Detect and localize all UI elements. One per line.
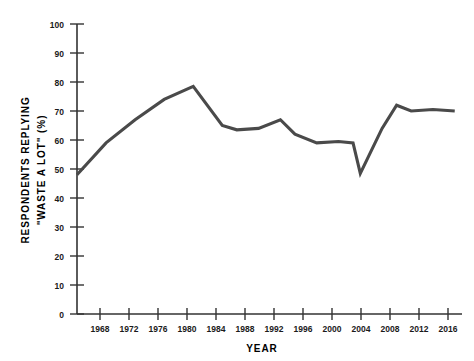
chart-container: 100 90 80 70 60 50 40 30 20 10 0 (0, 0, 474, 361)
y-tick-label: 20 (55, 252, 65, 262)
x-tick-label: 1968 (91, 324, 110, 334)
x-tick-label: 2008 (381, 324, 400, 334)
y-axis-tick-labels: 100 90 80 70 60 50 40 30 20 10 0 (50, 20, 64, 320)
x-tick-label: 1976 (149, 324, 168, 334)
y-tick-label: 100 (50, 20, 64, 30)
x-tick-label: 1996 (294, 324, 313, 334)
line-chart: 100 90 80 70 60 50 40 30 20 10 0 (0, 0, 474, 361)
x-tick-label: 2016 (439, 324, 458, 334)
x-tick-label: 1972 (120, 324, 139, 334)
x-tick-label: 2000 (323, 324, 342, 334)
x-tick-label: 1984 (207, 324, 226, 334)
data-series-line (77, 86, 455, 174)
y-tick-label: 0 (59, 310, 64, 320)
x-tick-label: 2004 (352, 324, 371, 334)
y-tick-label: 70 (55, 107, 65, 117)
x-tick-label: 1992 (265, 324, 284, 334)
y-tick-label: 90 (55, 49, 65, 59)
y-axis-title-line2: "WASTE A LOT" (%) (36, 115, 47, 226)
x-tick-label: 1980 (178, 324, 197, 334)
y-tick-label: 80 (55, 78, 65, 88)
y-tick-label: 30 (55, 223, 65, 233)
y-tick-label: 60 (55, 136, 65, 146)
x-tick-label: 2012 (410, 324, 429, 334)
x-tick-label: 1988 (236, 324, 255, 334)
y-tick-label: 10 (55, 281, 65, 291)
y-axis-title-line1: RESPONDENTS REPLYING (20, 96, 31, 243)
y-tick-label: 40 (55, 194, 65, 204)
y-tick-label: 50 (55, 165, 65, 175)
x-axis-tick-labels: 1968 1972 1976 1980 1984 1988 1992 1996 … (91, 324, 458, 334)
x-axis-title: YEAR (246, 343, 277, 354)
